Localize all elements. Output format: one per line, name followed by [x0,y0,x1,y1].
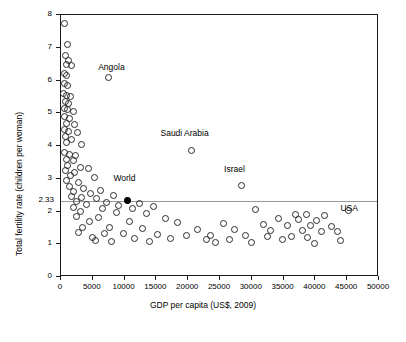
data-point [188,147,195,154]
data-point [68,62,75,69]
data-point [146,238,153,245]
data-point [99,205,106,212]
data-point [71,121,78,128]
data-point [321,212,328,219]
annotation-world: World [113,173,135,183]
data-point [264,233,271,240]
data-point [220,220,227,227]
annotation-angola: Angola [98,62,124,72]
data-point [162,215,169,222]
reference-line-label: 2.33 [22,195,54,204]
data-point [231,226,238,233]
annotation-usa: USA [340,203,357,213]
data-point [311,240,318,247]
data-point [226,236,233,243]
data-point [203,236,210,243]
x-tick-label: 50000 [358,282,398,291]
data-point [120,230,127,237]
data-point [304,234,311,241]
data-point [101,230,108,237]
data-point [318,228,325,235]
data-point [95,214,102,221]
y-tick [56,47,60,48]
data-point [260,221,267,228]
y-tick-label: 0 [24,271,52,280]
data-point [126,218,133,225]
x-tick [283,276,284,280]
plot-area [60,14,378,276]
data-point [150,203,157,210]
data-point [143,210,150,217]
y-tick [56,80,60,81]
data-point [70,204,77,211]
y-tick [56,14,60,15]
data-point [80,185,87,192]
data-point [97,187,104,194]
data-point [295,216,302,223]
y-tick-label: 3 [24,173,52,182]
x-tick [60,276,61,280]
data-point [167,235,174,242]
x-tick [378,276,379,280]
y-tick-label: 1 [24,238,52,247]
data-point [85,165,92,172]
data-point [83,201,90,208]
data-point [248,239,255,246]
data-point [275,215,282,222]
y-tick-label: 2 [24,206,52,215]
data-point [307,222,314,229]
data-point [194,226,201,233]
data-point [74,129,81,136]
data-point [78,141,85,148]
data-point [337,237,344,244]
data-point [334,228,341,235]
data-point [73,213,80,220]
data-point [313,217,320,224]
x-tick [346,276,347,280]
data-point [77,164,84,171]
data-point [70,108,77,115]
x-tick [314,276,315,280]
data-point [92,237,99,244]
y-tick [56,276,60,277]
x-axis-title: GDP per capita (US$, 2009) [0,300,406,310]
data-point [110,192,117,199]
data-point-world [124,197,131,204]
data-point [63,72,70,79]
data-point [113,209,120,216]
x-tick [187,276,188,280]
data-point [64,41,71,48]
x-tick [251,276,252,280]
y-tick [56,243,60,244]
data-point [154,231,161,238]
data-point [105,74,112,81]
annotation-israel: Israel [224,164,245,174]
data-point [91,174,98,181]
y-tick [56,145,60,146]
data-point [303,211,310,218]
data-point [86,218,93,225]
data-point [75,229,82,236]
data-point [63,139,70,146]
data-point [129,205,136,212]
data-point [61,20,68,27]
x-tick [124,276,125,280]
y-tick [56,211,60,212]
annotation-saudi-arabia: Saudi Arabia [160,128,208,138]
data-point [183,232,190,239]
y-tick-label: 6 [24,75,52,84]
x-tick [155,276,156,280]
y-tick-label: 7 [24,42,52,51]
data-point [288,233,295,240]
data-point [64,82,71,89]
data-point [93,195,100,202]
data-point [108,238,115,245]
data-point [299,227,306,234]
y-tick-label: 5 [24,107,52,116]
y-tick [56,112,60,113]
y-tick [56,178,60,179]
data-point [174,219,181,226]
data-point [279,236,286,243]
data-point [131,235,138,242]
data-point [252,206,259,213]
